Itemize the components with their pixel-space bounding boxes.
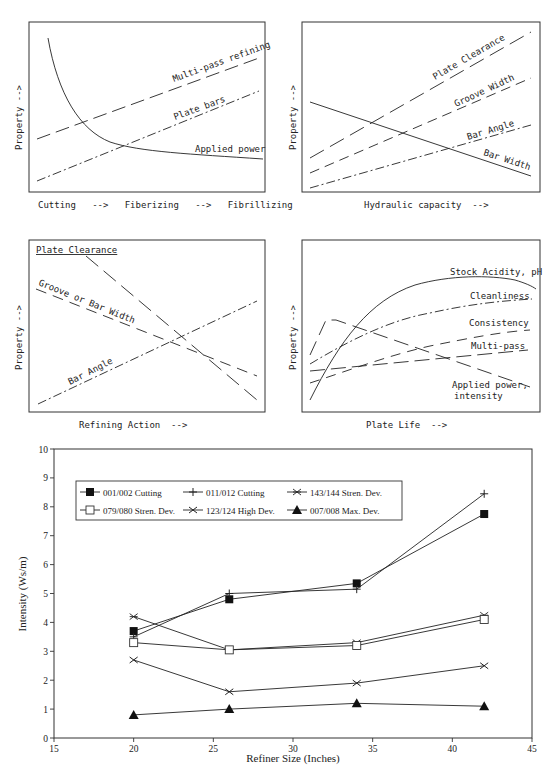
curve-consistency: [310, 330, 530, 383]
y-tick-label: 1: [43, 705, 48, 715]
y-tick-label: 0: [43, 734, 48, 744]
y-axis-ticks: 012345678910: [39, 445, 55, 744]
y-axis-label: Property -->: [288, 304, 298, 370]
legend: 001/002 Cutting011/012 Cutting143/144 St…: [76, 481, 402, 520]
series-filled-triangle: [129, 698, 490, 719]
panel-refining-action: Plate Clearance Groove or Bar Width Bar …: [14, 240, 265, 430]
curve-bar-angle: [38, 301, 257, 404]
label-cleanliness: Cleanliness: [470, 291, 530, 301]
series-open-square: [130, 616, 489, 654]
y-tick-label: 3: [43, 647, 48, 657]
x-tick-label: 15: [49, 744, 59, 754]
label-intensity: intensity: [454, 391, 503, 401]
label-multi-pass: Multi-pass: [471, 341, 525, 351]
x-tick-label: 20: [129, 744, 139, 754]
intensity-vs-refiner-size-chart: 012345678910 15202530354045 001/002 Cutt…: [16, 445, 537, 766]
panel-cutting-fibrillizing: Multi-pass refining Plate bars Applied p…: [14, 22, 293, 210]
y-axis-label: Property -->: [14, 84, 24, 150]
y-axis-label: Property -->: [288, 84, 298, 150]
panel-plate-life: Stock Acidity, pH Cleanliness Consistenc…: [288, 240, 542, 430]
legend-label: 143/144 Stren. Dev.: [310, 488, 382, 498]
x-axis-label: Hydraulic capacity -->: [364, 200, 489, 210]
x-tick-label: 40: [448, 744, 458, 754]
series-filled-square: [130, 510, 489, 635]
plot-frame: [29, 22, 265, 192]
label-applied-power: Applied power: [195, 144, 266, 154]
label-consistency: Consistency: [469, 318, 529, 328]
x-axis-label: Plate Life -->: [366, 420, 448, 430]
y-tick-label: 4: [43, 618, 48, 628]
plot-frame: [29, 240, 265, 412]
panel-hydraulic-capacity: Plate Clearance Groove Width Bar Angle B…: [288, 22, 540, 210]
y-tick-label: 5: [43, 589, 48, 599]
curve-plate-clearance: [86, 256, 257, 400]
curve-multi-pass: [310, 350, 528, 371]
legend-label: 001/002 Cutting: [103, 488, 162, 498]
data-series: [129, 490, 490, 719]
y-tick-label: 6: [43, 560, 48, 570]
label-plate-clearance: Plate Clearance: [431, 32, 506, 81]
legend-item: 079/080 Stren. Dev.: [80, 506, 175, 516]
label-groove-or-bar-width: Groove or Bar Width: [37, 278, 136, 326]
x-tick-label: 25: [209, 744, 219, 754]
label-groove-width: Groove Width: [453, 72, 516, 109]
y-axis-title: Intensity (Ws/m): [16, 556, 29, 631]
x-axis-title: Refiner Size (Inches): [246, 752, 340, 765]
legend-item: 001/002 Cutting: [80, 488, 162, 498]
label-stock-acidity: Stock Acidity, pH: [450, 267, 542, 277]
curve-cleanliness: [310, 299, 532, 364]
series-x: [130, 657, 489, 695]
figure: Multi-pass refining Plate bars Applied p…: [0, 0, 551, 778]
x-axis-label: Cutting --> Fiberizing --> Fibrillizing: [38, 200, 293, 210]
label-multi-pass-refining: Multi-pass refining: [171, 39, 271, 84]
legend-label: 079/080 Stren. Dev.: [103, 506, 175, 516]
curve-groove-or-bar-width: [36, 289, 257, 376]
label-plate-clearance: Plate Clearance: [36, 245, 117, 255]
legend-label: 007/008 Max. Dev.: [310, 506, 379, 516]
y-tick-label: 9: [43, 473, 48, 483]
legend-label: 011/012 Cutting: [206, 488, 265, 498]
x-tick-label: 35: [368, 744, 378, 754]
y-tick-label: 8: [43, 502, 48, 512]
curve-applied-power-intensity: [310, 320, 530, 387]
label-bar-angle: Bar Angle: [466, 118, 516, 142]
curve-multi-pass-refining: [37, 58, 259, 139]
label-applied-power: Applied power,: [452, 380, 528, 390]
plot-frame: [302, 22, 540, 192]
y-tick-label: 7: [43, 531, 48, 541]
legend-label: 123/124 High Dev.: [206, 506, 275, 516]
x-axis-label: Refining Action -->: [79, 420, 188, 430]
x-tick-label: 45: [527, 744, 537, 754]
y-tick-label: 2: [43, 676, 48, 686]
y-axis-label: Property -->: [14, 304, 24, 370]
y-tick-label: 10: [39, 445, 49, 455]
